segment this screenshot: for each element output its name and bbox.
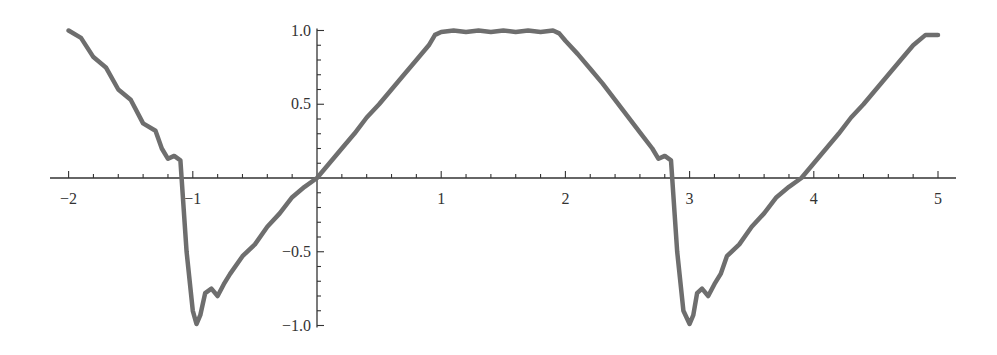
x-tick-label: 2 xyxy=(561,190,569,207)
x-tick-label: −1 xyxy=(184,190,201,207)
y-tick-label: −0.5 xyxy=(282,243,311,260)
x-tick-label: 4 xyxy=(810,190,818,207)
x-tick-label: 3 xyxy=(686,190,694,207)
x-tick-label: 1 xyxy=(437,190,445,207)
x-tick-label: −2 xyxy=(60,190,77,207)
line-chart: −2−1123451.00.5−0.5−1.0 xyxy=(0,0,997,355)
y-tick-label: 1.0 xyxy=(291,22,311,39)
data-series-line xyxy=(69,31,938,325)
axes xyxy=(50,29,956,328)
y-tick-label: 0.5 xyxy=(291,95,311,112)
y-tick-label: −1.0 xyxy=(282,317,311,334)
x-tick-label: 5 xyxy=(934,190,942,207)
